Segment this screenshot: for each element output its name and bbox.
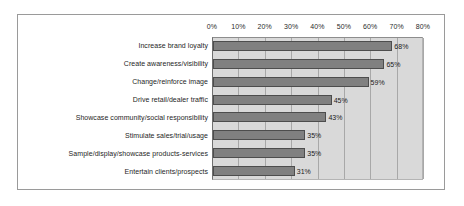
bar-value-label: 65% [384, 59, 400, 68]
bar[interactable] [213, 41, 392, 51]
bar[interactable] [213, 77, 369, 87]
bar[interactable] [213, 95, 332, 105]
bar-row: Increase brand loyalty68% [18, 37, 446, 55]
chart-frame: 0%10%20%30%40%50%60%70%80% Increase bran… [17, 14, 445, 190]
category-label: Showcase community/social responsibility [18, 113, 212, 122]
bar-value-label: 45% [332, 95, 348, 104]
bar-rows: Increase brand loyalty68%Create awarenes… [18, 37, 446, 180]
bar-row: Create awareness/visibility65% [18, 55, 446, 73]
bar-track: 65% [212, 55, 446, 73]
category-label: Drive retail/dealer traffic [18, 95, 212, 104]
category-label: Change/reinforce image [18, 77, 212, 86]
bar-track: 43% [212, 109, 446, 127]
bar-value-label: 31% [295, 167, 311, 176]
bar-value-label: 35% [305, 149, 321, 158]
bar-row: Stimulate sales/trial/usage35% [18, 126, 446, 144]
bar[interactable] [213, 130, 305, 140]
bar-track: 35% [212, 144, 446, 162]
bar-row: Sample/display/showcase products-service… [18, 144, 446, 162]
bar-value-label: 43% [326, 113, 342, 122]
bar[interactable] [213, 148, 305, 158]
category-label: Entertain clients/prospects [18, 167, 212, 176]
bar-row: Entertain clients/prospects31% [18, 162, 446, 180]
bar-track: 35% [212, 126, 446, 144]
bar-track: 68% [212, 37, 446, 55]
bar-value-label: 68% [392, 41, 408, 50]
bar-row: Showcase community/social responsibility… [18, 109, 446, 127]
x-tick-label: 80% [403, 22, 443, 32]
bar-value-label: 59% [369, 77, 385, 86]
bar[interactable] [213, 59, 384, 69]
bar-value-label: 35% [305, 131, 321, 140]
category-label: Create awareness/visibility [18, 59, 212, 68]
category-label: Stimulate sales/trial/usage [18, 131, 212, 140]
bar-row: Change/reinforce image59% [18, 73, 446, 91]
bar-track: 31% [212, 162, 446, 180]
x-axis-tick-labels: 0%10%20%30%40%50%60%70%80% [212, 22, 440, 34]
bar-row: Drive retail/dealer traffic45% [18, 91, 446, 109]
bar[interactable] [213, 166, 295, 176]
bar-track: 59% [212, 73, 446, 91]
category-label: Increase brand loyalty [18, 41, 212, 50]
category-label: Sample/display/showcase products-service… [18, 149, 212, 158]
bar[interactable] [213, 112, 326, 122]
bar-track: 45% [212, 91, 446, 109]
